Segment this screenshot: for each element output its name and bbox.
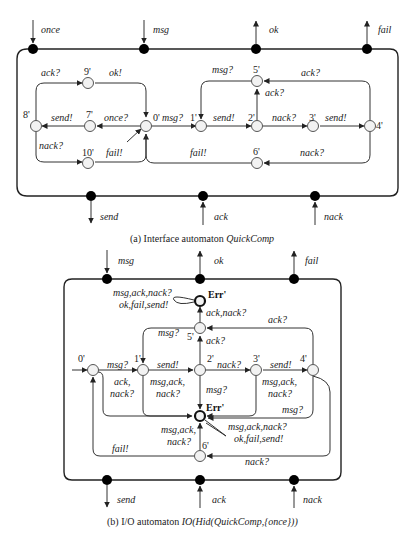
label-err-1-2: nack? bbox=[156, 388, 180, 399]
label-err-3-2: nack? bbox=[268, 388, 292, 399]
label-send-3-4: send! bbox=[270, 359, 292, 370]
svg-text:0': 0' bbox=[153, 112, 160, 123]
label-nack-2-3: nack? bbox=[217, 359, 241, 370]
label-msg-2-err: msg? bbox=[206, 384, 227, 395]
svg-text:6': 6' bbox=[202, 440, 209, 451]
label-fail-10-0: fail! bbox=[106, 147, 123, 158]
svg-text:4': 4' bbox=[300, 353, 307, 364]
svg-text:ok: ok bbox=[269, 24, 279, 35]
svg-text:ack: ack bbox=[212, 494, 226, 505]
svg-text:msg: msg bbox=[153, 24, 169, 35]
label-err-6-2: nack? bbox=[167, 436, 191, 447]
label-err-self-top-2: ok,fail,send! bbox=[119, 299, 168, 310]
label-nack-8-10: nack? bbox=[39, 140, 63, 151]
svg-text:ok: ok bbox=[214, 255, 224, 266]
label-ack-2-5: ack? bbox=[206, 335, 225, 346]
label-msg-0-1: msg? bbox=[107, 359, 128, 370]
svg-text:7': 7' bbox=[86, 109, 93, 120]
label-msg-4-err: msg? bbox=[282, 404, 303, 415]
label-ack-nack-5-err: ack,nack? bbox=[206, 307, 246, 318]
svg-text:5': 5' bbox=[187, 331, 194, 342]
label-send-1-2: send! bbox=[213, 112, 235, 123]
svg-text:10': 10' bbox=[82, 147, 94, 158]
label-ack-4-5: ack? bbox=[268, 314, 287, 325]
svg-text:1': 1' bbox=[134, 353, 141, 364]
svg-text:once: once bbox=[41, 24, 60, 35]
label-ack-4-5: ack? bbox=[301, 67, 320, 78]
label-ack-0-err-1: ack, bbox=[114, 376, 130, 387]
svg-text:2': 2' bbox=[207, 353, 214, 364]
label-nack-4-6: nack? bbox=[300, 147, 324, 158]
label-send-1-2: send! bbox=[157, 359, 179, 370]
caption-a: (a) Interface automaton QuickComp bbox=[130, 233, 274, 245]
label-msg-5-1: msg? bbox=[158, 327, 179, 338]
label-err-self-bottom-1: msg,ack,nack? bbox=[228, 421, 287, 432]
svg-text:ack: ack bbox=[214, 211, 228, 222]
svg-text:3': 3' bbox=[253, 353, 260, 364]
label-err-6-1: msg,ack, bbox=[161, 424, 196, 435]
label-msg-5-1: msg? bbox=[212, 64, 233, 75]
caption-b: (b) I/O automaton IO(Hid(QuickComp,{once… bbox=[107, 516, 298, 528]
svg-text:Err': Err' bbox=[206, 402, 225, 413]
label-err-self-top-1: msg,ack,nack? bbox=[113, 287, 172, 298]
label-nack-4-6: nack? bbox=[245, 456, 269, 467]
state-10: 10' bbox=[82, 147, 94, 169]
label-msg-0-1: msg? bbox=[162, 112, 183, 123]
label-ack-2-5: ack? bbox=[265, 87, 284, 98]
label-err-self-bottom-2: ok,fail,send! bbox=[234, 433, 283, 444]
svg-text:nack: nack bbox=[324, 211, 343, 222]
svg-text:nack: nack bbox=[303, 494, 322, 505]
svg-text:msg: msg bbox=[118, 255, 134, 266]
svg-text:0': 0' bbox=[78, 353, 85, 364]
svg-text:3': 3' bbox=[309, 112, 316, 123]
svg-text:fail: fail bbox=[305, 255, 319, 266]
svg-text:6': 6' bbox=[253, 146, 260, 157]
svg-text:8': 8' bbox=[23, 109, 30, 120]
label-ack-0-err-2: nack? bbox=[110, 388, 134, 399]
label-ack-8-9: ack? bbox=[41, 67, 60, 78]
svg-text:5': 5' bbox=[253, 64, 260, 75]
label-fail-6-0: fail! bbox=[190, 147, 207, 158]
svg-text:9': 9' bbox=[84, 66, 91, 77]
svg-text:send: send bbox=[100, 211, 119, 222]
svg-text:4': 4' bbox=[376, 120, 383, 131]
svg-text:2': 2' bbox=[248, 112, 255, 123]
label-send-3-4: send! bbox=[325, 112, 347, 123]
diagram: once msg ok fail send ack bbox=[0, 0, 412, 537]
svg-text:fail: fail bbox=[378, 24, 392, 35]
state-4: 4' bbox=[365, 120, 384, 132]
label-nack-2-3: nack? bbox=[272, 112, 296, 123]
label-ok-9-0: ok! bbox=[109, 67, 122, 78]
label-once-0-7: once? bbox=[104, 112, 128, 123]
svg-text:send: send bbox=[117, 494, 136, 505]
svg-text:1': 1' bbox=[190, 112, 197, 123]
label-err-3-1: msg,ack, bbox=[262, 376, 297, 387]
label-err-1-1: msg,ack, bbox=[150, 376, 185, 387]
svg-text:Err': Err' bbox=[208, 289, 227, 300]
label-fail-6-0: fail! bbox=[112, 443, 129, 454]
label-send-7-8: send! bbox=[51, 112, 73, 123]
